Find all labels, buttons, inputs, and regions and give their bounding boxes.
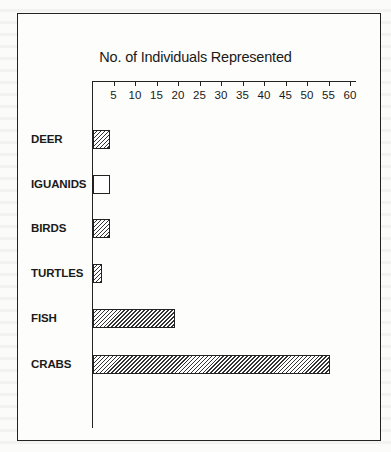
x-axis bbox=[92, 81, 356, 82]
x-tick-label: 60 bbox=[338, 89, 362, 101]
x-tick-mark bbox=[221, 81, 222, 86]
x-tick-mark bbox=[329, 81, 330, 86]
x-tick-label: 25 bbox=[188, 89, 212, 101]
x-tick-mark bbox=[114, 81, 115, 86]
category-label: TURTLES bbox=[31, 267, 83, 279]
x-tick-mark bbox=[178, 81, 179, 86]
x-tick-mark bbox=[307, 81, 308, 86]
x-tick-label: 10 bbox=[123, 89, 147, 101]
category-label: DEER bbox=[31, 133, 63, 145]
chart-title: No. of Individuals Represented bbox=[0, 49, 391, 65]
x-tick-mark bbox=[243, 81, 244, 86]
x-tick-mark bbox=[157, 81, 158, 86]
x-tick-mark bbox=[200, 81, 201, 86]
x-tick-label: 40 bbox=[252, 89, 276, 101]
bar-birds bbox=[93, 219, 110, 238]
category-label: IGUANIDS bbox=[31, 178, 86, 190]
x-tick-mark bbox=[135, 81, 136, 86]
x-tick-label: 35 bbox=[231, 89, 255, 101]
x-tick-mark bbox=[286, 81, 287, 86]
x-tick-label: 15 bbox=[145, 89, 169, 101]
x-tick-label: 5 bbox=[102, 89, 126, 101]
bar-iguanids bbox=[93, 175, 110, 194]
bar-fish bbox=[93, 309, 175, 328]
bar-deer bbox=[93, 130, 110, 149]
bar-turtles bbox=[93, 264, 102, 283]
x-tick-label: 55 bbox=[317, 89, 341, 101]
x-tick-label: 30 bbox=[209, 89, 233, 101]
category-label: BIRDS bbox=[31, 222, 66, 234]
x-tick-label: 45 bbox=[274, 89, 298, 101]
x-tick-label: 50 bbox=[295, 89, 319, 101]
figure-frame bbox=[17, 13, 381, 441]
x-tick-mark bbox=[264, 81, 265, 86]
category-label: CRABS bbox=[31, 358, 71, 370]
category-label: FISH bbox=[31, 312, 57, 324]
bar-crabs bbox=[93, 355, 330, 374]
x-tick-mark bbox=[350, 81, 351, 86]
x-tick-label: 20 bbox=[166, 89, 190, 101]
